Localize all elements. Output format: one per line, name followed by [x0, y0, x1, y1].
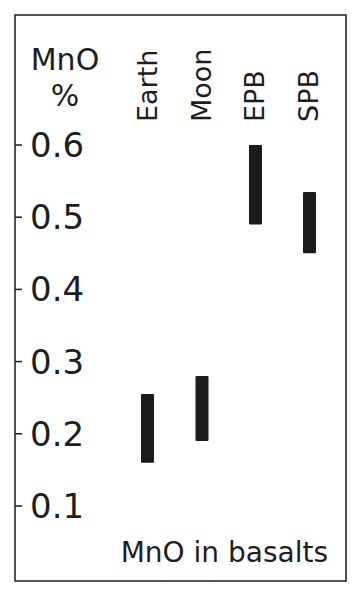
category-label-spb: SPB	[293, 70, 324, 122]
range-bar-earth	[141, 394, 154, 463]
y-tick-label: 0.3	[30, 342, 84, 382]
category-label-earth: Earth	[132, 50, 163, 122]
category-label-moon: Moon	[186, 49, 217, 122]
y-label-quantity: MnO	[31, 42, 100, 77]
chart-title: MnO in basalts	[121, 536, 328, 569]
y-axis-ticks	[15, 145, 22, 506]
y-tick-label: 0.4	[30, 269, 84, 309]
y-tick-label: 0.2	[30, 414, 84, 454]
y-axis-tick-labels: 0.60.50.40.30.20.1	[30, 125, 84, 526]
y-tick-label: 0.1	[30, 486, 84, 526]
range-bar-spb	[303, 192, 316, 253]
y-tick-label: 0.5	[30, 197, 84, 237]
mno-range-chart: 0.60.50.40.30.20.1 MnO% EarthMoonEPBSPB …	[0, 0, 356, 590]
y-label-unit: %	[51, 78, 80, 113]
range-bar-epb	[249, 145, 262, 224]
category-label-epb: EPB	[239, 70, 270, 122]
category-labels: EarthMoonEPBSPB	[132, 49, 324, 122]
range-bar-moon	[196, 376, 209, 441]
y-tick-label: 0.6	[30, 125, 84, 165]
range-bars	[141, 145, 316, 463]
y-axis-label: MnO%	[31, 42, 100, 113]
